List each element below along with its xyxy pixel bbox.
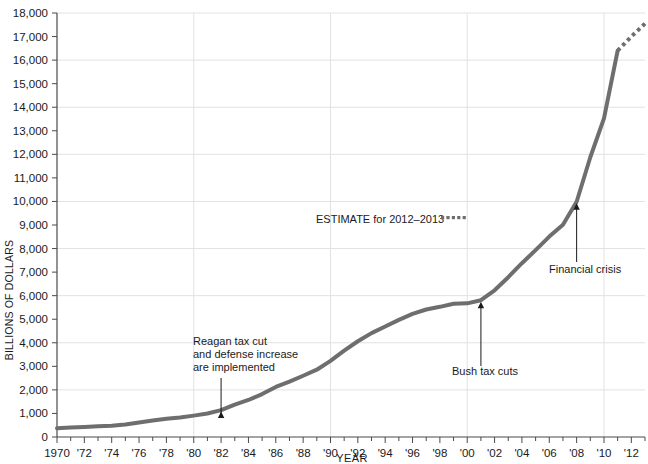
y-axis-tick-label: 14,000 — [13, 101, 48, 113]
x-axis-tick-label: '76 — [132, 447, 147, 459]
annotation-reagan-line2: and defense increase — [193, 348, 298, 360]
data-series-group — [57, 24, 645, 429]
estimate-line-series — [618, 24, 645, 51]
y-axis-tick-label: 13,000 — [13, 125, 48, 137]
x-axis-tick-label: '86 — [268, 447, 283, 459]
y-axis-tick-label: 0 — [42, 431, 48, 443]
y-axis-tick-label: 9,000 — [19, 219, 48, 231]
y-axis-ticks-group: 01,0002,0003,0004,0005,0006,0007,0008,00… — [13, 7, 57, 443]
annotation-bush-label: Bush tax cuts — [452, 365, 519, 377]
estimate-swatch-dot — [452, 216, 455, 219]
x-axis-tick-label: '06 — [542, 447, 557, 459]
y-axis-tick-label: 17,000 — [13, 31, 48, 43]
y-axis-tick-label: 18,000 — [13, 7, 48, 19]
x-axis-tick-label: 1970 — [44, 447, 70, 459]
x-axis-title: YEAR — [336, 452, 368, 464]
y-axis-tick-label: 15,000 — [13, 78, 48, 90]
annotation-reagan: Reagan tax cut and defense increase are … — [193, 335, 298, 418]
y-axis-tick-label: 5,000 — [19, 313, 48, 325]
x-axis-tick-label: '08 — [569, 447, 584, 459]
x-axis-tick-label: '00 — [460, 447, 475, 459]
annotation-financial-crisis: Financial crisis — [549, 203, 622, 275]
x-axis-tick-label: '10 — [596, 447, 611, 459]
y-axis-tick-label: 7,000 — [19, 266, 48, 278]
chart-canvas: 01,0002,0003,0004,0005,0006,0007,0008,00… — [0, 0, 648, 464]
estimate-swatch-dot — [446, 216, 449, 219]
national-debt-line-chart: 01,0002,0003,0004,0005,0006,0007,0008,00… — [0, 0, 648, 464]
x-axis-tick-label: '74 — [104, 447, 120, 459]
y-axis-tick-label: 16,000 — [13, 54, 48, 66]
x-axis-tick-label: '94 — [378, 447, 394, 459]
x-axis-tick-label: '04 — [514, 447, 530, 459]
annotation-reagan-line3: are implemented — [193, 361, 275, 373]
x-axis-tick-label: '84 — [241, 447, 257, 459]
estimate-legend-label: ESTIMATE for 2012–2013 — [316, 213, 444, 225]
y-axis-tick-label: 10,000 — [13, 195, 48, 207]
y-axis-title: BILLIONS OF DOLLARS — [3, 240, 15, 361]
x-axis-tick-label: '96 — [405, 447, 420, 459]
estimate-swatch-dot — [457, 216, 460, 219]
estimate-dotted-swatch-icon — [441, 216, 466, 219]
y-axis-tick-label: 12,000 — [13, 148, 48, 160]
y-axis-tick-label: 1,000 — [19, 407, 48, 419]
x-axis-tick-label: '80 — [186, 447, 201, 459]
axis-lines-group — [57, 13, 645, 437]
y-axis-tick-label: 2,000 — [19, 384, 48, 396]
annotation-bush: Bush tax cuts — [452, 302, 519, 377]
estimate-swatch-dot — [441, 216, 444, 219]
x-axis-tick-label: '72 — [77, 447, 92, 459]
x-axis-tick-label: '98 — [432, 447, 447, 459]
x-axis-tick-label: '02 — [487, 447, 502, 459]
y-axis-tick-label: 11,000 — [14, 172, 48, 184]
y-axis-tick-label: 3,000 — [19, 360, 48, 372]
annotation-reagan-line1: Reagan tax cut — [193, 335, 267, 347]
y-axis-tick-label: 6,000 — [19, 290, 48, 302]
gridlines-group — [57, 13, 645, 437]
y-axis-tick-label: 8,000 — [19, 243, 48, 255]
estimate-swatch-dot — [463, 216, 466, 219]
x-axis-tick-label: '82 — [214, 447, 229, 459]
y-axis-tick-label: 4,000 — [19, 337, 48, 349]
estimate-legend: ESTIMATE for 2012–2013 — [316, 213, 466, 225]
x-axis-tick-label: '12 — [624, 447, 639, 459]
x-axis-tick-label: '78 — [159, 447, 174, 459]
x-axis-tick-label: '88 — [296, 447, 311, 459]
annotation-crisis-label: Financial crisis — [549, 263, 622, 275]
